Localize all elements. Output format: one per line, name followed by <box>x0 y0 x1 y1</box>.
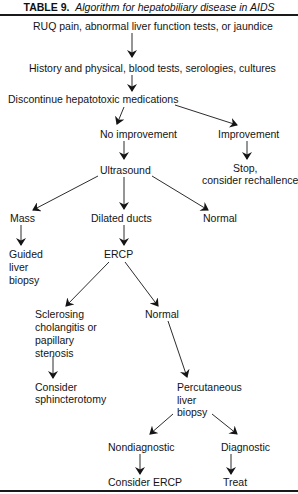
node-history: History and physical, blood tests, serol… <box>29 62 276 74</box>
node-percutaneous-line2: liver <box>177 394 196 406</box>
node-stop-line1: Stop, <box>233 162 258 174</box>
node-start: RUQ pain, abnormal liver function tests,… <box>33 20 273 32</box>
node-sclerosing-line2: cholangitis or <box>35 321 97 333</box>
node-guided-line3: biopsy <box>9 274 39 286</box>
node-normal-ercp: Normal <box>145 308 179 320</box>
node-guided-line1: Guided <box>9 248 43 260</box>
node-percutaneous-line1: Percutaneous <box>177 381 242 393</box>
node-sclerosing-line1: Sclerosing <box>35 308 84 320</box>
node-stop-line2: consider rechallence <box>202 174 298 186</box>
node-ercp: ERCP <box>104 248 133 260</box>
node-no-improvement: No improvement <box>100 128 177 140</box>
flowchart-arrows <box>0 0 298 494</box>
node-discontinue: Discontinue hepatotoxic medications <box>8 93 178 105</box>
bottom-rule <box>0 490 298 492</box>
node-sclerosing-line3: papillary <box>35 334 74 346</box>
node-nondiagnostic: Nondiagnostic <box>108 441 175 453</box>
node-treat: Treat <box>223 476 247 488</box>
node-consider-ercp: Consider ERCP <box>108 476 182 488</box>
node-improvement: Improvement <box>218 128 279 140</box>
node-sphincter-line2: sphincterotomy <box>35 393 106 405</box>
node-percutaneous-line3: biopsy <box>177 406 207 418</box>
node-sphincter-line1: Consider <box>35 381 77 393</box>
node-diagnostic: Diagnostic <box>221 441 270 453</box>
node-normal-ultrasound: Normal <box>203 212 237 224</box>
node-mass: Mass <box>10 212 35 224</box>
node-dilated-ducts: Dilated ducts <box>91 212 152 224</box>
node-sclerosing-line4: stenosis <box>35 347 74 359</box>
node-guided-line2: liver <box>9 261 28 273</box>
node-ultrasound: Ultrasound <box>100 164 151 176</box>
